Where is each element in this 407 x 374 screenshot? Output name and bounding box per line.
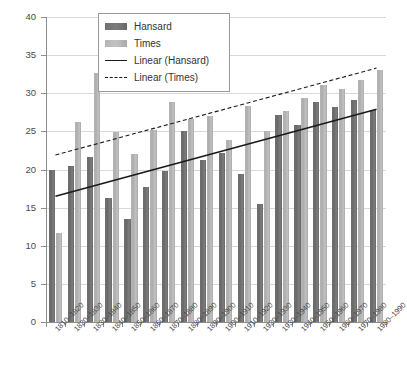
y-tick-mark [41, 284, 46, 285]
legend-label-linear-times: Linear (Times) [134, 72, 198, 83]
y-tick-label: 35 [2, 50, 36, 60]
y-tick-mark [41, 322, 46, 323]
y-tick-mark [41, 17, 46, 18]
y-tick-label: 25 [2, 126, 36, 136]
x-axis-tick-labels: 1810–18201820–18301830–18401840–18501850… [0, 327, 402, 374]
y-tick-mark [41, 208, 46, 209]
y-tick-mark [41, 131, 46, 132]
legend-item-hansard: Hansard [105, 18, 223, 35]
y-tick-label: 40 [2, 12, 36, 22]
legend-swatch-hansard [105, 23, 127, 30]
trendline-linear-hansard [55, 109, 376, 196]
y-tick-mark [41, 55, 46, 56]
legend-item-times: Times [105, 35, 223, 52]
legend-label-linear-hansard: Linear (Hansard) [134, 55, 209, 66]
y-tick-label: 5 [2, 279, 36, 289]
y-tick-label: 15 [2, 203, 36, 213]
chart-legend: Hansard Times Linear (Hansard) Linear (T… [98, 13, 230, 92]
y-tick-mark [41, 170, 46, 171]
y-tick-label: 0 [2, 317, 36, 327]
legend-line-dashed-icon [105, 74, 127, 81]
y-tick-label: 30 [2, 88, 36, 98]
legend-item-linear-hansard: Linear (Hansard) [105, 52, 223, 69]
legend-swatch-times [105, 40, 127, 47]
y-axis-tick-labels: 0510152025303540 [0, 0, 40, 374]
y-tick-label: 10 [2, 241, 36, 251]
legend-item-linear-times: Linear (Times) [105, 69, 223, 86]
y-tick-label: 20 [2, 165, 36, 175]
y-tick-mark [41, 93, 46, 94]
legend-label-hansard: Hansard [134, 21, 172, 32]
y-tick-mark [41, 246, 46, 247]
legend-label-times: Times [134, 38, 161, 49]
legend-line-solid-icon [105, 57, 127, 64]
